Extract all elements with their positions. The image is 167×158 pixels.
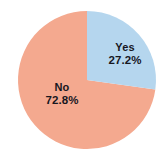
pie-label-no-name: No: [33, 82, 91, 94]
pie-label-yes: Yes 27.2%: [96, 42, 154, 66]
pie-label-no-value: 72.8%: [33, 94, 91, 106]
pie-label-no: No 72.8%: [33, 82, 91, 106]
pie-label-yes-name: Yes: [96, 42, 154, 54]
pie-chart-graphic: [0, 0, 167, 158]
pie-label-yes-value: 27.2%: [96, 54, 154, 66]
pie-chart-figure: Yes 27.2% No 72.8%: [0, 0, 167, 158]
